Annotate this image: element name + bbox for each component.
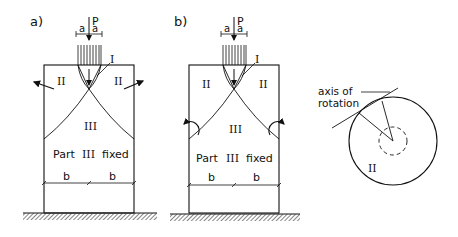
fixed-label-roman: III [226,152,239,165]
rotation-arrow-right-icon [269,122,284,135]
fixed-label-part: Part [53,148,75,161]
dim-a-right: a [92,23,98,34]
region-II-label: II [368,162,377,175]
axis-label-line1: axis of [318,85,353,97]
panel-a-label: a) [30,14,43,29]
failure-mechanism-diagram: a) P a a [0,0,458,237]
dim-a-left: a [79,23,85,34]
dim-a-left: a [224,23,230,34]
load-p-a: P a a [76,15,102,65]
panel-b-label: b) [174,14,187,29]
panel-c-plan-view: axis of rotation II [318,85,437,185]
fixed-label-part: Part [196,152,218,165]
region-III-label: III [84,120,97,133]
region-II-right: II [114,75,123,88]
region-II-right: II [259,78,268,91]
distributed-load-hatching [223,45,246,65]
panel-a: a) P a a [23,14,157,220]
radius-line-2 [382,101,393,141]
fixed-label-suffix: fixed [102,148,129,161]
region-II-left: II [57,75,66,88]
load-p-b: P a a [221,15,247,65]
dim-a-right: a [237,23,243,34]
radius-line-1 [359,113,393,141]
axis-label-line2: rotation [318,97,359,109]
dim-b-left: b [63,170,70,183]
region-II-left: II [202,78,211,91]
rotation-arrow-left-icon [184,122,199,135]
dim-b-right: b [253,171,260,184]
dim-b-right: b [109,170,116,183]
region-I-label: I [110,53,114,66]
region-I-label: I [255,53,259,66]
ground-hatch [170,214,300,221]
distributed-load-hatching [78,45,101,65]
fixed-label-roman: III [82,148,95,161]
fixed-label-suffix: fixed [246,152,273,165]
region-III-label: III [229,123,242,136]
dim-b-left: b [208,171,215,184]
ground-hatch [23,213,157,220]
panel-b: b) P a a I [170,14,300,221]
